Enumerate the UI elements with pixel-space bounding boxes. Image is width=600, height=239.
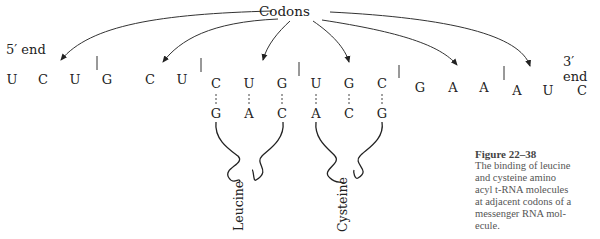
mrna-base: A bbox=[479, 80, 488, 95]
mrna-base: C bbox=[145, 72, 155, 87]
codon-arrows bbox=[61, 11, 530, 66]
mrna-base: C bbox=[38, 72, 48, 87]
mrna-base: G bbox=[277, 76, 287, 91]
five-prime-end-label: 5′ end bbox=[6, 42, 46, 57]
anticodon-base: A bbox=[311, 106, 320, 121]
leucine-label: Leucine bbox=[231, 181, 246, 231]
caption-line: and cysteine amino bbox=[475, 172, 600, 184]
mrna-base: A bbox=[512, 83, 521, 98]
mrna-base: U bbox=[543, 83, 554, 98]
mrna-base: G bbox=[344, 76, 354, 91]
trna-strands bbox=[216, 122, 382, 183]
codon-dividers bbox=[97, 56, 504, 80]
caption-line: messenger RNA mol- bbox=[475, 208, 600, 220]
mrna-base: U bbox=[311, 76, 322, 91]
base-pair-bonds bbox=[216, 94, 382, 106]
caption-line: acyl t-RNA molecules bbox=[475, 184, 600, 196]
mrna-base: U bbox=[7, 72, 18, 87]
mrna-base: C bbox=[211, 76, 221, 91]
anticodon-base: A bbox=[244, 106, 253, 121]
caption-line: The binding of leucine bbox=[475, 160, 600, 172]
caption-line: at adjacent codons of a bbox=[475, 196, 600, 208]
mrna-base: U bbox=[70, 72, 81, 87]
figure-number: Figure 22–38 bbox=[475, 148, 600, 160]
mrna-base: U bbox=[244, 76, 255, 91]
anticodon-base: C bbox=[277, 106, 287, 121]
anticodon-base: C bbox=[344, 106, 354, 121]
codons-label: Codons bbox=[259, 3, 310, 19]
three-prime-end-label: 3′ end bbox=[563, 54, 600, 84]
anticodon-base: G bbox=[211, 106, 221, 121]
caption-line: ecule. bbox=[475, 220, 600, 232]
anticodon-base: G bbox=[377, 106, 387, 121]
mrna-base: G bbox=[102, 72, 112, 87]
mrna-base: G bbox=[415, 80, 425, 95]
mrna-base: C bbox=[377, 76, 387, 91]
mrna-base: U bbox=[177, 72, 188, 87]
mrna-base: A bbox=[448, 80, 457, 95]
figure-caption: Figure 22–38 The binding of leucine and … bbox=[475, 148, 600, 232]
cysteine-label: Cysteine bbox=[335, 177, 350, 232]
mrna-base: C bbox=[577, 83, 587, 98]
